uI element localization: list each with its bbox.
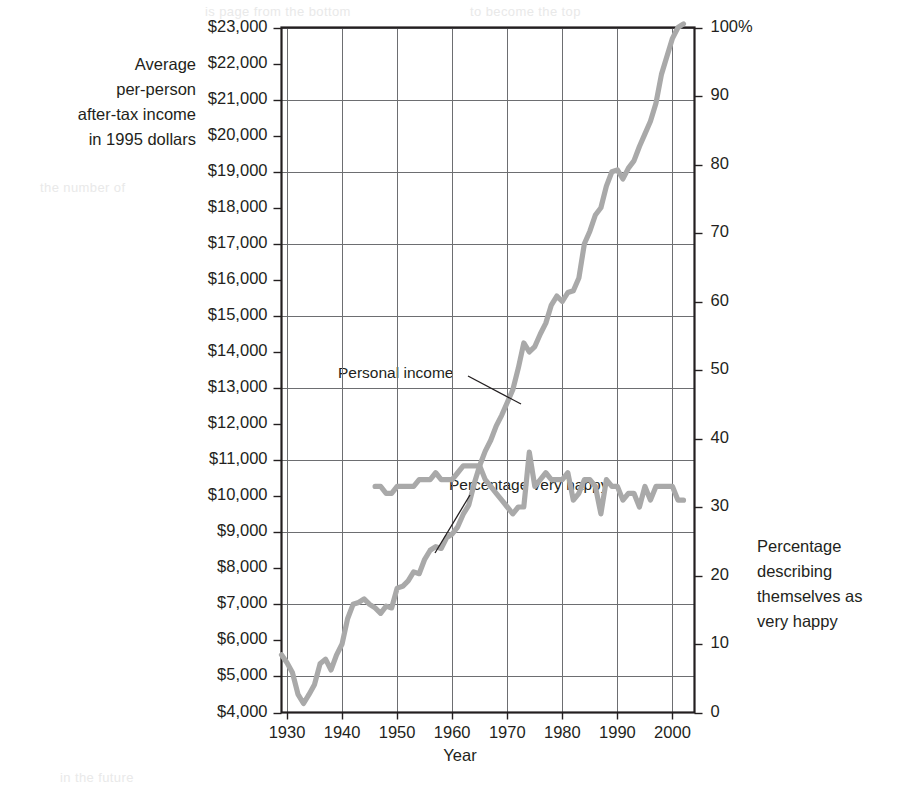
- left-axis-title: Average per-person after-tax income in 1…: [18, 52, 196, 152]
- x-tick-label: 1940: [312, 723, 372, 742]
- left-tick-label: $14,000: [182, 341, 268, 360]
- background-bleed-text: in the future: [60, 770, 134, 785]
- annotation-percentage-very-happy: Percentage very happy: [449, 476, 608, 494]
- x-tick-label: 2000: [642, 723, 702, 742]
- left-tick-label: $4,000: [182, 702, 268, 721]
- x-tick-label: 1970: [477, 723, 537, 742]
- left-tick-label: $5,000: [182, 665, 268, 684]
- left-tick-label: $17,000: [182, 233, 268, 252]
- right-tick-label: 30: [711, 496, 729, 515]
- right-axis-title-line: very happy: [757, 609, 907, 634]
- x-axis-title: Year: [0, 746, 920, 765]
- right-tick-label: 20: [711, 565, 729, 584]
- left-axis-title-line: Average: [18, 52, 196, 77]
- right-tick-label: 70: [711, 222, 729, 241]
- leader-line-personal-income: [468, 376, 521, 404]
- right-tick-label: 10: [711, 633, 729, 652]
- right-tick-label: 0: [711, 702, 720, 721]
- x-tick-label: 1930: [257, 723, 317, 742]
- left-tick-label: $20,000: [182, 125, 268, 144]
- left-tick-label: $9,000: [182, 521, 268, 540]
- background-bleed-text: the number of: [40, 180, 125, 195]
- right-tick-label: 90: [711, 85, 729, 104]
- right-tick-label: 100%: [711, 17, 753, 36]
- left-tick-label: $23,000: [182, 17, 268, 36]
- left-tick-label: $15,000: [182, 305, 268, 324]
- chart-figure: is page from the bottom to become the to…: [0, 0, 920, 786]
- x-tick-label: 1950: [367, 723, 427, 742]
- left-tick-label: $12,000: [182, 413, 268, 432]
- x-tick-label: 1990: [587, 723, 647, 742]
- right-tick-label: 60: [711, 291, 729, 310]
- left-tick-label: $10,000: [182, 485, 268, 504]
- left-tick-label: $16,000: [182, 269, 268, 288]
- left-tick-label: $21,000: [182, 89, 268, 108]
- background-bleed-text: to become the top: [470, 4, 581, 19]
- right-tick-label: 80: [711, 154, 729, 173]
- left-tick-label: $13,000: [182, 377, 268, 396]
- right-axis-title-line: Percentage: [757, 534, 907, 559]
- left-tick-label: $22,000: [182, 53, 268, 72]
- right-axis-title: Percentage describing themselves as very…: [757, 534, 907, 634]
- left-tick-label: $7,000: [182, 593, 268, 612]
- right-axis-title-line: themselves as: [757, 584, 907, 609]
- right-tick-label: 50: [711, 359, 729, 378]
- x-tick-label: 1980: [532, 723, 592, 742]
- left-tick-label: $11,000: [182, 449, 268, 468]
- x-tick-label: 1960: [422, 723, 482, 742]
- right-tick-label: 40: [711, 428, 729, 447]
- left-axis-title-line: per-person: [18, 77, 196, 102]
- annotation-personal-income: Personal income: [338, 364, 453, 382]
- left-tick-label: $8,000: [182, 557, 268, 576]
- right-axis-title-line: describing: [757, 559, 907, 584]
- left-axis-title-line: in 1995 dollars: [18, 127, 196, 152]
- left-tick-label: $18,000: [182, 197, 268, 216]
- left-tick-label: $6,000: [182, 629, 268, 648]
- leader-line-percentage-very-happy: [435, 495, 470, 553]
- left-tick-label: $19,000: [182, 161, 268, 180]
- left-axis-title-line: after-tax income: [18, 102, 196, 127]
- annotation-leader-lines: [435, 376, 521, 553]
